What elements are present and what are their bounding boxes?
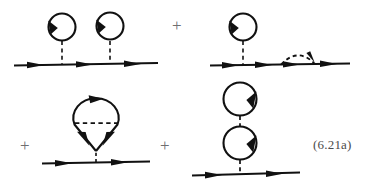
line-arrowhead — [266, 170, 283, 177]
line-arrowhead — [124, 61, 141, 67]
line-arrowhead — [283, 61, 300, 67]
line-arrowhead — [222, 62, 239, 68]
plus-operator-3: + — [160, 137, 170, 154]
line-arrowhead — [76, 61, 93, 67]
line-arrowhead — [255, 62, 272, 68]
loop-arrowhead — [89, 95, 104, 103]
teardrop-loop-left — [73, 98, 96, 151]
plus-operator-1: + — [172, 17, 182, 34]
line-arrowhead — [205, 172, 222, 179]
loop-arrowhead — [103, 132, 115, 146]
line-arrowhead — [27, 62, 44, 68]
loop-arrowhead — [77, 132, 89, 146]
teardrop-loop-right — [96, 98, 119, 151]
line-arrowhead — [320, 61, 337, 67]
diagram-canvas — [0, 0, 385, 187]
plus-operator-2: + — [20, 137, 30, 154]
term-vertex-correction — [42, 95, 150, 166]
equation-label: (6.21a) — [313, 138, 352, 151]
arc-arrowhead — [306, 51, 314, 62]
term-tadpole-rainbow — [210, 14, 350, 69]
term-stacked-loops — [192, 83, 300, 179]
line-arrowhead — [111, 159, 128, 165]
feynman-diagram-figure: + + + (6.21a) — [0, 0, 385, 187]
term-double-tadpole — [14, 13, 158, 69]
line-arrowhead — [55, 160, 72, 166]
